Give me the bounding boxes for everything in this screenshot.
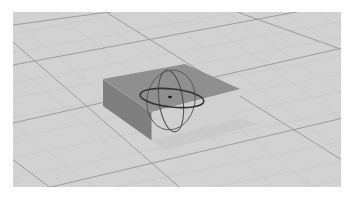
gizmo-center-icon[interactable] bbox=[168, 96, 172, 99]
